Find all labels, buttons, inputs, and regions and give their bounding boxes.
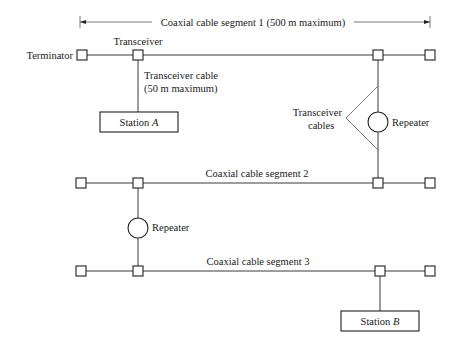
terminator-icon — [76, 266, 86, 276]
transceiver-cable-label-line1: Transceiver cable — [144, 70, 218, 81]
transceiver-icon — [133, 266, 143, 276]
arrow-right-icon — [424, 20, 430, 24]
transceiver-icon — [373, 178, 383, 188]
transceiver-cables-label-line2: cables — [308, 120, 334, 131]
coax-segment-1: Terminator Transceiver — [27, 36, 436, 61]
coax-segment-3: Coaxial cable segment 3 — [76, 256, 435, 276]
transceiver-cables-label-line1: Transceiver — [293, 107, 343, 118]
segment-2-label: Coaxial cable segment 2 — [206, 168, 309, 179]
transceiver-icon — [373, 50, 383, 60]
arrow-left-icon — [80, 20, 86, 24]
transceiver-label: Transceiver — [113, 36, 163, 47]
transceiver-icon — [133, 178, 143, 188]
ethernet-segments-diagram: Coaxial cable segment 1 (500 m maximum) … — [0, 0, 460, 346]
station-a-group: Transceiver cable (50 m maximum) Station… — [100, 60, 218, 132]
terminator-icon — [77, 50, 87, 60]
terminator-label: Terminator — [27, 50, 74, 61]
terminator-icon — [425, 50, 435, 60]
repeater-icon — [368, 112, 388, 132]
segment-1-label: Coaxial cable segment 1 (500 m maximum) — [161, 17, 346, 29]
repeater-icon — [128, 218, 148, 238]
terminator-icon — [76, 178, 86, 188]
station-a-label: Station A — [120, 117, 159, 128]
station-b-group: Station B — [341, 276, 419, 331]
terminator-icon — [425, 266, 435, 276]
terminator-icon — [425, 178, 435, 188]
repeater-1-group: Repeater Transceiver cables — [293, 60, 430, 178]
station-b-label: Station B — [361, 316, 400, 327]
transceiver-icon — [133, 50, 143, 60]
coax-segment-2: Coaxial cable segment 2 — [76, 168, 435, 188]
transceiver-icon — [375, 266, 385, 276]
transceiver-cable-label-line2: (50 m maximum) — [144, 83, 218, 95]
repeater-2-group: Repeater — [128, 188, 190, 266]
segment-3-label: Coaxial cable segment 3 — [207, 256, 310, 267]
repeater-1-label: Repeater — [392, 117, 430, 128]
repeater-2-label: Repeater — [152, 222, 190, 233]
segment-1-dimension: Coaxial cable segment 1 (500 m maximum) — [80, 16, 430, 29]
